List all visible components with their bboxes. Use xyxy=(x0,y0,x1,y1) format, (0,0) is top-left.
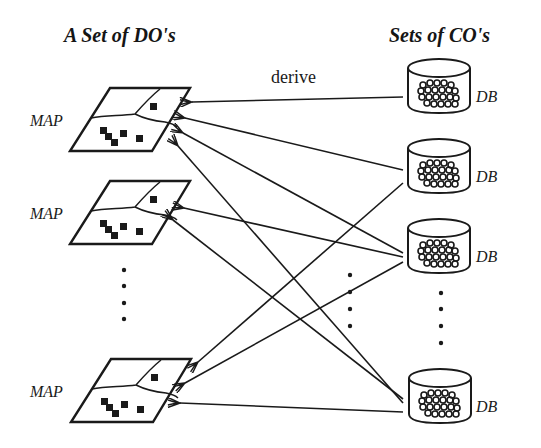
ellipsis-dots xyxy=(122,268,443,345)
database-icon-3 xyxy=(408,219,470,273)
maps-ellipsis-dot xyxy=(122,317,126,321)
database-icon-1 xyxy=(408,59,470,113)
derive-arrow-2 xyxy=(185,118,403,170)
database-icon-4 xyxy=(409,369,471,423)
derive-arrow-6 xyxy=(173,220,403,399)
derive-arrow-1 xyxy=(192,97,403,102)
derive-arrow-3 xyxy=(183,133,403,253)
db-ellipsis-dot xyxy=(439,341,443,345)
maps-ellipsis-dot xyxy=(122,268,126,272)
derive-arrow-5 xyxy=(184,208,403,257)
map-icon-2 xyxy=(70,181,190,244)
db-ellipsis-dot xyxy=(439,291,443,295)
middle-ellipsis-dot xyxy=(348,290,352,294)
map-icon-3 xyxy=(71,359,191,422)
derive-arrow-9 xyxy=(180,403,403,412)
maps-ellipsis-dot xyxy=(122,284,126,288)
middle-ellipsis-dot xyxy=(348,273,352,277)
derive-arrow-7 xyxy=(198,183,403,362)
derive-arrows xyxy=(173,97,403,412)
middle-ellipsis-dot xyxy=(348,324,352,328)
map-icon-1 xyxy=(70,88,190,151)
db-ellipsis-dot xyxy=(439,307,443,311)
derivation-diagram xyxy=(0,0,541,448)
db-ellipsis-dot xyxy=(439,324,443,328)
derive-arrow-4 xyxy=(178,146,403,403)
middle-ellipsis-dot xyxy=(348,307,352,311)
maps-ellipsis-dot xyxy=(122,301,126,305)
database-icon-2 xyxy=(408,139,470,193)
